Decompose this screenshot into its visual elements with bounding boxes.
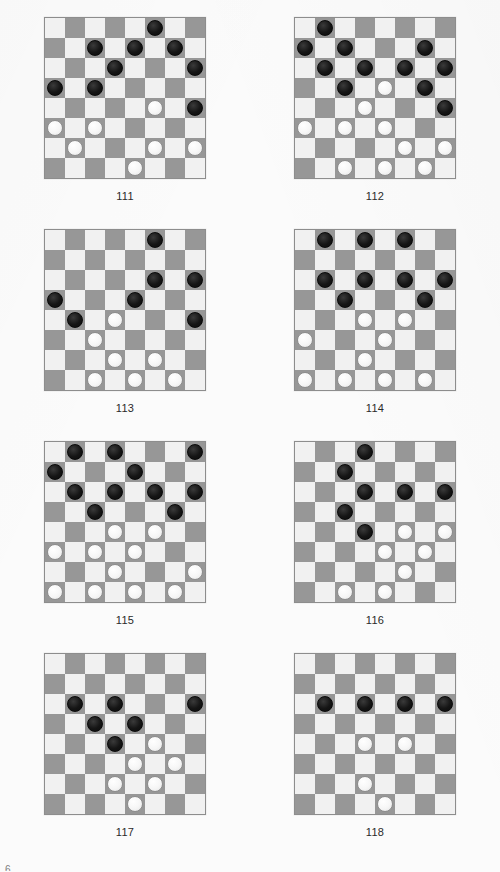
square-r3c4[interactable] [125, 714, 145, 734]
square-r3c7[interactable] [185, 290, 205, 310]
square-r2c0[interactable] [45, 58, 65, 78]
black-checker[interactable] [437, 484, 453, 500]
square-r1c3[interactable] [355, 674, 375, 694]
square-r1c0[interactable] [295, 250, 315, 270]
square-r1c7[interactable] [435, 674, 455, 694]
square-r6c2[interactable] [335, 562, 355, 582]
square-r5c5[interactable] [395, 542, 415, 562]
square-r7c2[interactable] [335, 794, 355, 814]
black-checker[interactable] [357, 60, 373, 76]
square-r4c2[interactable] [85, 98, 105, 118]
square-r0c4[interactable] [375, 230, 395, 250]
square-r2c6[interactable] [165, 270, 185, 290]
square-r4c3[interactable] [355, 522, 375, 542]
square-r7c5[interactable] [145, 794, 165, 814]
square-r5c2[interactable] [85, 330, 105, 350]
white-checker[interactable] [47, 584, 63, 600]
square-r1c3[interactable] [105, 674, 125, 694]
white-checker[interactable] [357, 100, 373, 116]
square-r3c2[interactable] [335, 714, 355, 734]
square-r3c3[interactable] [105, 714, 125, 734]
square-r5c4[interactable] [125, 542, 145, 562]
square-r1c3[interactable] [355, 38, 375, 58]
checkerboard[interactable] [44, 653, 206, 815]
square-r6c4[interactable] [375, 138, 395, 158]
square-r2c6[interactable] [165, 58, 185, 78]
square-r7c4[interactable] [375, 794, 395, 814]
square-r5c4[interactable] [125, 754, 145, 774]
square-r1c7[interactable] [435, 250, 455, 270]
square-r2c3[interactable] [355, 58, 375, 78]
square-r7c1[interactable] [65, 794, 85, 814]
square-r6c0[interactable] [295, 138, 315, 158]
square-r6c7[interactable] [435, 562, 455, 582]
square-r5c5[interactable] [145, 118, 165, 138]
square-r6c2[interactable] [85, 138, 105, 158]
square-r3c4[interactable] [375, 714, 395, 734]
square-r5c2[interactable] [85, 118, 105, 138]
square-r3c5[interactable] [395, 78, 415, 98]
square-r4c1[interactable] [315, 734, 335, 754]
square-r2c4[interactable] [125, 58, 145, 78]
square-r0c7[interactable] [435, 654, 455, 674]
square-r2c3[interactable] [355, 270, 375, 290]
square-r1c1[interactable] [65, 250, 85, 270]
square-r4c6[interactable] [415, 522, 435, 542]
square-r4c1[interactable] [65, 310, 85, 330]
square-r7c3[interactable] [355, 794, 375, 814]
square-r7c6[interactable] [165, 370, 185, 390]
square-r6c5[interactable] [395, 774, 415, 794]
black-checker[interactable] [127, 292, 143, 308]
white-checker[interactable] [377, 544, 393, 560]
square-r7c5[interactable] [395, 158, 415, 178]
square-r7c3[interactable] [105, 370, 125, 390]
square-r5c0[interactable] [295, 754, 315, 774]
square-r7c3[interactable] [105, 794, 125, 814]
black-checker[interactable] [417, 80, 433, 96]
square-r1c5[interactable] [395, 38, 415, 58]
square-r4c2[interactable] [335, 734, 355, 754]
square-r4c0[interactable] [45, 734, 65, 754]
black-checker[interactable] [87, 716, 103, 732]
square-r2c5[interactable] [145, 694, 165, 714]
square-r2c3[interactable] [105, 694, 125, 714]
square-r5c7[interactable] [185, 330, 205, 350]
black-checker[interactable] [337, 40, 353, 56]
square-r1c6[interactable] [165, 250, 185, 270]
square-r3c7[interactable] [185, 714, 205, 734]
square-r1c7[interactable] [185, 462, 205, 482]
square-r3c0[interactable] [295, 714, 315, 734]
square-r5c1[interactable] [315, 118, 335, 138]
square-r1c6[interactable] [415, 38, 435, 58]
black-checker[interactable] [337, 464, 353, 480]
square-r7c0[interactable] [45, 582, 65, 602]
black-checker[interactable] [317, 20, 333, 36]
white-checker[interactable] [167, 584, 183, 600]
square-r2c4[interactable] [125, 270, 145, 290]
square-r5c1[interactable] [65, 330, 85, 350]
square-r4c4[interactable] [125, 734, 145, 754]
square-r2c3[interactable] [355, 482, 375, 502]
square-r0c1[interactable] [315, 230, 335, 250]
square-r1c6[interactable] [415, 462, 435, 482]
square-r5c2[interactable] [335, 118, 355, 138]
square-r3c3[interactable] [355, 714, 375, 734]
square-r1c2[interactable] [335, 38, 355, 58]
square-r6c2[interactable] [335, 774, 355, 794]
square-r6c3[interactable] [105, 350, 125, 370]
square-r4c2[interactable] [335, 310, 355, 330]
square-r4c1[interactable] [315, 522, 335, 542]
square-r0c0[interactable] [45, 654, 65, 674]
black-checker[interactable] [317, 272, 333, 288]
square-r2c2[interactable] [85, 482, 105, 502]
square-r2c7[interactable] [435, 694, 455, 714]
square-r7c2[interactable] [85, 582, 105, 602]
square-r0c3[interactable] [105, 442, 125, 462]
square-r4c4[interactable] [375, 310, 395, 330]
square-r7c6[interactable] [165, 158, 185, 178]
white-checker[interactable] [397, 140, 413, 156]
square-r1c1[interactable] [65, 462, 85, 482]
square-r3c5[interactable] [145, 290, 165, 310]
square-r2c4[interactable] [375, 482, 395, 502]
black-checker[interactable] [437, 696, 453, 712]
